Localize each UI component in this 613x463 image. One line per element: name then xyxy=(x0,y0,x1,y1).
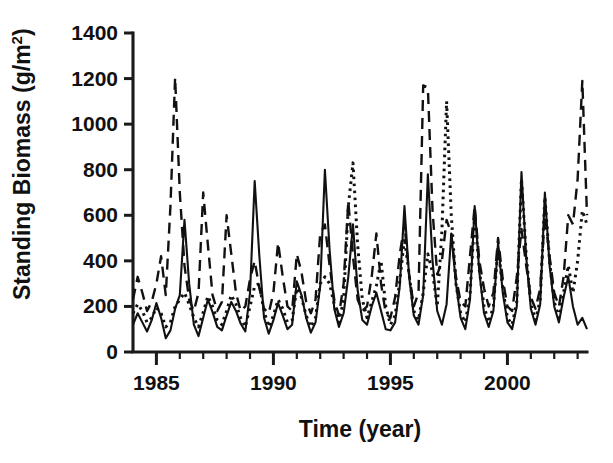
y-tick-label-800: 800 xyxy=(83,158,118,181)
y-tick-label-1000: 1000 xyxy=(71,112,118,135)
y-axis-title-superscript: 2 xyxy=(8,36,25,44)
x-axis-title: Time (year) xyxy=(299,416,421,442)
x-major-tick-group xyxy=(156,352,507,365)
chart-figure: Standing Biomass (g/m2) Time (year) 0200… xyxy=(0,0,613,463)
y-axis-title-text: Standing Biomass (g/m xyxy=(9,44,35,300)
y-axis-title: Standing Biomass (g/m2) xyxy=(8,28,35,300)
y-tick-label-200: 200 xyxy=(83,294,118,317)
x-tick-label-1995: 1995 xyxy=(367,371,414,394)
data-series-group xyxy=(133,77,587,338)
standing-biomass-line-chart: Standing Biomass (g/m2) Time (year) 0200… xyxy=(0,0,613,463)
x-tick-label-2000: 2000 xyxy=(484,371,531,394)
y-tick-label-1200: 1200 xyxy=(71,67,118,90)
y-tick-label-1400: 1400 xyxy=(71,21,118,44)
y-tick-label-600: 600 xyxy=(83,203,118,226)
y-tick-label-400: 400 xyxy=(83,249,118,272)
y-tick-label-0: 0 xyxy=(106,340,118,363)
x-tick-label-1990: 1990 xyxy=(250,371,297,394)
svg-text:Standing Biomass (g/m2): Standing Biomass (g/m2) xyxy=(8,28,35,300)
y-tick-label-group: 0200400600800100012001400 xyxy=(71,21,118,363)
x-tick-label-1985: 1985 xyxy=(133,371,180,394)
y-axis-title-tail: ) xyxy=(9,28,35,36)
x-tick-label-group: 1985199019952000 xyxy=(133,371,531,394)
